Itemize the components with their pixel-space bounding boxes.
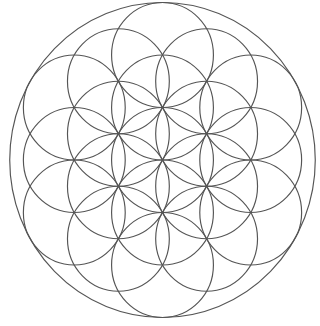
flower-of-life-diagram	[0, 0, 320, 326]
circle-group	[10, 3, 316, 318]
